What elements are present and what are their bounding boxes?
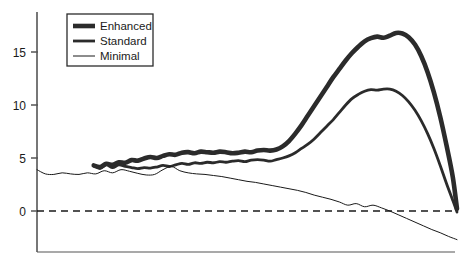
legend-label-minimal: Minimal [100, 50, 140, 62]
legend: Enhanced Standard Minimal [67, 14, 153, 66]
chart-container: 051015 Enhanced Standard Minimal [0, 0, 461, 267]
y-tick-label: 15 [13, 46, 27, 60]
legend-label-enhanced: Enhanced [100, 20, 152, 32]
line-chart: 051015 Enhanced Standard Minimal [0, 0, 461, 267]
y-tick-label: 0 [19, 205, 26, 219]
y-tick-label: 5 [19, 152, 26, 166]
legend-label-standard: Standard [100, 35, 147, 47]
y-tick-label: 10 [13, 99, 27, 113]
